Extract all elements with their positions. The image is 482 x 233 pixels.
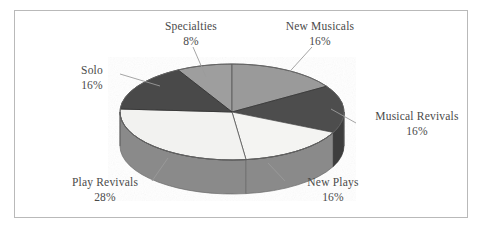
slice-label-new-plays-name: New Plays <box>288 176 378 190</box>
slice-label-solo-percent: 16% <box>60 79 124 93</box>
slice-label-new-musicals-percent: 16% <box>265 35 375 49</box>
pie-chart-figure: Specialties 8% New Musicals 16% Solo 16%… <box>0 0 482 233</box>
slice-label-musical-revivals-percent: 16% <box>357 125 477 139</box>
slice-label-solo: Solo 16% <box>60 64 124 92</box>
slice-label-musical-revivals: Musical Revivals 16% <box>357 110 477 138</box>
slice-label-play-revivals-name: Play Revivals <box>50 176 160 190</box>
slice-label-specialties-name: Specialties <box>143 20 239 34</box>
slice-label-solo-name: Solo <box>60 64 124 78</box>
slice-label-play-revivals-percent: 28% <box>50 191 160 205</box>
slice-label-new-musicals: New Musicals 16% <box>265 20 375 48</box>
slice-label-new-plays: New Plays 16% <box>288 176 378 204</box>
slice-label-specialties-percent: 8% <box>143 35 239 49</box>
slice-label-musical-revivals-name: Musical Revivals <box>357 110 477 124</box>
slice-label-specialties: Specialties 8% <box>143 20 239 48</box>
pie-body <box>120 64 344 194</box>
slice-label-play-revivals: Play Revivals 28% <box>50 176 160 204</box>
slice-label-new-plays-percent: 16% <box>288 191 378 205</box>
slice-label-new-musicals-name: New Musicals <box>265 20 375 34</box>
